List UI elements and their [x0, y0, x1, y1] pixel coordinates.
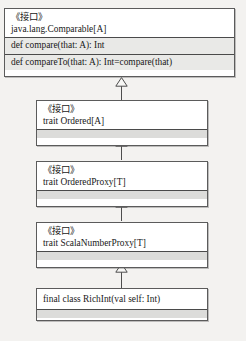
generalization-line-richint-to-scalanumberproxy [121, 272, 122, 288]
class-box-ordered-proxy[interactable]: 《接口》 trait OrderedProxy[T] [36, 161, 208, 207]
generalization-arrowhead-ordered-to-comparable [115, 77, 128, 87]
class-name-compartment-ordered-proxy: 《接口》 trait OrderedProxy[T] [37, 162, 207, 190]
class-name-compartment-scala-number-proxy: 《接口》 trait ScalaNumberProxy[T] [37, 223, 207, 251]
class-stereotype-ordered: 《接口》 [43, 103, 202, 115]
class-empty-compartment-rich-int [37, 309, 207, 318]
generalization-line-scalanumberproxy-to-orderedproxy [121, 207, 122, 221]
generalization-line-orderedproxy-to-ordered [121, 146, 122, 160]
class-name-compartment-rich-int: final class RichInt(val self: Int) [37, 289, 207, 309]
class-empty-compartment-scala-number-proxy [37, 251, 207, 260]
class-box-ordered[interactable]: 《接口》 trait Ordered[A] [36, 100, 208, 146]
generalization-line-ordered-to-comparable [121, 86, 122, 100]
class-box-comparable[interactable]: 《接口》 java.lang.Comparable[A] def compare… [4, 8, 235, 77]
class-title-ordered: trait Ordered[A] [43, 115, 202, 127]
class-member-comparable-compareto: def compareTo(that: A): Int=compare(that… [5, 54, 234, 70]
class-empty-compartment-ordered-proxy [37, 190, 207, 199]
class-name-compartment-comparable: 《接口》 java.lang.Comparable[A] [5, 9, 234, 37]
class-title-ordered-proxy: trait OrderedProxy[T] [43, 176, 202, 188]
class-member-comparable-compare: def compare(that: A): Int [5, 37, 234, 53]
uml-class-diagram: 《接口》 java.lang.Comparable[A] def compare… [0, 0, 246, 341]
class-stereotype-scala-number-proxy: 《接口》 [43, 225, 202, 237]
class-name-compartment-ordered: 《接口》 trait Ordered[A] [37, 101, 207, 129]
class-box-rich-int[interactable]: final class RichInt(val self: Int) [36, 288, 208, 321]
class-empty-compartment-ordered [37, 129, 207, 138]
class-box-scala-number-proxy[interactable]: 《接口》 trait ScalaNumberProxy[T] [36, 222, 208, 268]
class-title-comparable: java.lang.Comparable[A] [11, 23, 229, 35]
class-stereotype-comparable: 《接口》 [11, 11, 229, 23]
class-title-scala-number-proxy: trait ScalaNumberProxy[T] [43, 237, 202, 249]
class-stereotype-ordered-proxy: 《接口》 [43, 164, 202, 176]
class-title-rich-int: final class RichInt(val self: Int) [43, 293, 202, 305]
